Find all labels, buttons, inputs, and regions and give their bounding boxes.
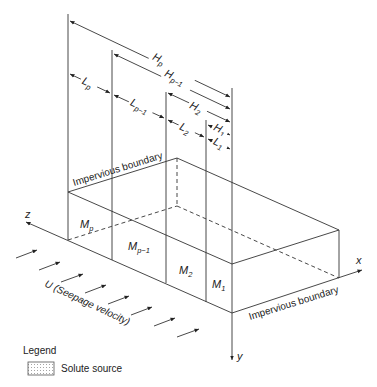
z-axis-label: z [24,208,31,220]
diagram-canvas: Hp Hp−1 H2 H1 Lp Lp−1 L2 L1 Impervious b… [0,0,377,387]
solute-source-diagram: Hp Hp−1 H2 H1 Lp Lp−1 L2 L1 Impervious b… [0,0,377,387]
zone-label-M1: M1 [212,278,225,293]
box-hidden-edge-back [177,206,339,278]
solute-source-swatch [28,362,54,375]
seepage-velocity-label: U (Seepage velocity) [43,278,132,327]
x-axis-label: x [355,254,362,266]
zone-label-M2: M2 [179,264,193,279]
zone-label-Mp: Mp [80,218,93,233]
y-axis-label: y [236,350,244,362]
impervious-boundary-bottom-label: Impervious boundary [247,284,339,322]
z-axis [26,222,232,313]
zone-label-Mp1: Mp−1 [128,240,150,255]
seepage-velocity-arrows [16,250,199,337]
impervious-boundary-top-label: Impervious boundary [71,150,163,188]
legend-item-solute-source: Solute source [61,363,123,374]
legend-title: Legend [23,345,56,356]
